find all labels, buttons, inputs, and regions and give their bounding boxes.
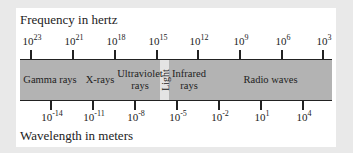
frequency-tick-label: 1023	[23, 35, 42, 47]
frequency-tick	[281, 50, 283, 59]
wavelength-tick	[302, 101, 304, 110]
frequency-tick-label: 109	[234, 35, 249, 47]
frequency-tick	[197, 50, 199, 59]
wavelength-tick-label: 10-11	[83, 111, 104, 123]
frequency-tick-label: 1012	[190, 35, 209, 47]
wavelength-tick-label: 10-14	[41, 111, 63, 123]
frequency-tick-label: 1015	[149, 35, 168, 47]
frequency-tick-label: 1021	[65, 35, 84, 47]
wavelength-tick-label: 10-2	[211, 111, 229, 123]
wavelength-tick	[260, 101, 262, 110]
spectrum-region: Ultraviolet rays	[120, 60, 160, 100]
frequency-tick	[30, 50, 32, 59]
frequency-tick	[322, 50, 324, 59]
spectrum-region: Infrared rays	[169, 60, 209, 100]
wavelength-tick	[218, 101, 220, 110]
wavelength-tick	[92, 101, 94, 110]
spectrum-band: Light Gamma raysX-raysUltraviolet raysIn…	[20, 59, 332, 101]
wavelength-tick-label: 101	[255, 111, 270, 123]
frequency-tick	[239, 50, 241, 59]
frequency-tick	[156, 50, 158, 59]
spectrum-region: Radio waves	[209, 60, 332, 100]
spectrum-region: Gamma rays	[20, 60, 80, 100]
frequency-tick-label: 103	[317, 35, 332, 47]
wavelength-tick	[176, 101, 178, 110]
wavelength-axis-title: Wavelength in meters	[20, 129, 133, 142]
spectrum-region: X-rays	[80, 60, 120, 100]
frequency-tick-label: 1018	[107, 35, 126, 47]
wavelength-tick-label: 10-8	[127, 111, 145, 123]
wavelength-tick-label: 104	[297, 111, 312, 123]
frequency-tick	[114, 50, 116, 59]
wavelength-tick-label: 10-5	[169, 111, 187, 123]
frequency-axis-title: Frequency in hertz	[20, 13, 117, 26]
frequency-tick	[72, 50, 74, 59]
frequency-tick-label: 106	[276, 35, 291, 47]
wavelength-tick	[134, 101, 136, 110]
